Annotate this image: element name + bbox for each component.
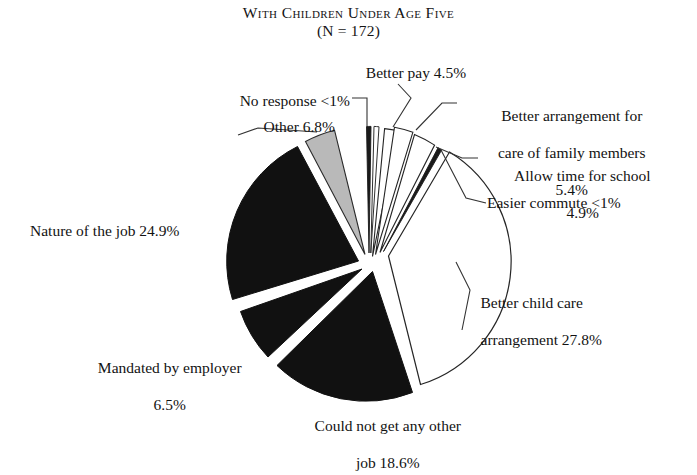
label-allow-school-line1: Allow time for school <box>514 167 650 184</box>
label-mandated-line1: Mandated by employer <box>98 359 242 376</box>
label-mandated-by-employer: Mandated by employer 6.5% <box>48 340 276 433</box>
label-no-other-job-line1: Could not get any other <box>315 417 461 434</box>
leader-better-pay <box>393 84 411 127</box>
label-better-pay: Better pay 4.5% <box>326 64 506 83</box>
label-easier-commute: Easier commute <1% <box>487 194 697 213</box>
label-could-not-get-other-job: Could not get any other job 18.6% <box>250 398 510 475</box>
leader-no-response <box>352 98 367 126</box>
label-no-other-job-line2: job 18.6% <box>356 454 420 471</box>
slice-no-response <box>367 126 372 253</box>
label-other: Other 6.8% <box>150 118 335 137</box>
label-mandated-line2: 6.5% <box>154 396 186 413</box>
label-child-care-line2: arrangement 27.8% <box>481 331 602 348</box>
label-child-care-line1: Better child care <box>481 294 583 311</box>
label-better-child-care: Better child care arrangement 27.8% <box>465 275 690 368</box>
label-family-care-line1: Better arrangement for <box>501 107 642 124</box>
slice-could-not-get-other-job <box>277 272 413 402</box>
label-nature-of-the-job: Nature of the job 24.9% <box>30 222 245 241</box>
label-no-response: No response <1% <box>150 92 350 111</box>
